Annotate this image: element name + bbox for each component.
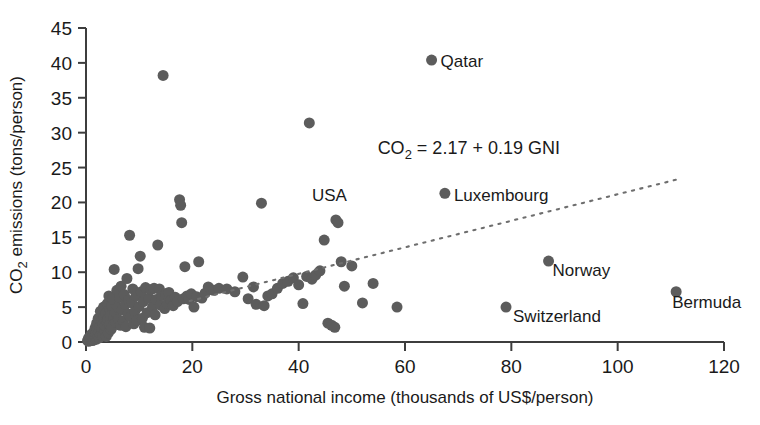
y-tick-label: 15 [51, 227, 72, 248]
data-point [339, 281, 350, 292]
y-tick-label: 0 [61, 332, 72, 353]
data-point [392, 302, 403, 313]
data-point [188, 302, 199, 313]
y-tick-label: 5 [61, 297, 72, 318]
y-tick-label: 40 [51, 53, 72, 74]
data-point [256, 198, 267, 209]
scatter-chart-figure: 051015202530354045 020406080100120 Qatar… [0, 0, 760, 425]
data-point [152, 240, 163, 251]
data-point [336, 256, 347, 267]
x-tick-label: 100 [602, 356, 634, 377]
y-axis-title: CO2 emissions (tons/person) [7, 76, 30, 294]
data-point [237, 272, 248, 283]
data-point [368, 278, 379, 289]
data-point [297, 298, 308, 309]
y-tick-label: 45 [51, 18, 72, 39]
y-axis: 051015202530354045 [51, 18, 86, 353]
data-point [175, 200, 186, 211]
data-point [304, 117, 315, 128]
x-tick-label: 80 [501, 356, 522, 377]
data-point [179, 261, 190, 272]
data-point [124, 230, 135, 241]
data-point [229, 286, 240, 297]
data-point [121, 273, 132, 284]
regression-line-group [190, 178, 682, 301]
x-axis: 020406080100120 [81, 342, 740, 377]
data-point [133, 263, 144, 274]
usa-label: USA [312, 186, 348, 205]
data-point [150, 309, 161, 320]
x-tick-label: 40 [288, 356, 309, 377]
plot-area: 051015202530354045 020406080100120 Qatar… [0, 0, 760, 425]
regression-line [190, 178, 682, 301]
data-point [259, 300, 270, 311]
data-point [144, 323, 155, 334]
data-point [193, 256, 204, 267]
data-point [176, 217, 187, 228]
y-tick-label: 20 [51, 192, 72, 213]
x-tick-label: 120 [708, 356, 740, 377]
luxembourg-label: Luxembourg [454, 186, 549, 205]
x-tick-label: 60 [394, 356, 415, 377]
regression-equation-label: CO2 = 2.17 + 0.19 GNI [378, 138, 560, 162]
regression-equation-group: CO2 = 2.17 + 0.19 GNI [378, 138, 560, 162]
bermuda-label: Bermuda [672, 293, 742, 312]
data-point [357, 297, 368, 308]
data-point [501, 302, 512, 313]
norway-label: Norway [553, 261, 611, 280]
switzerland-label: Switzerland [513, 307, 601, 326]
y-tick-label: 25 [51, 158, 72, 179]
y-tick-label: 10 [51, 262, 72, 283]
x-tick-label: 0 [81, 356, 92, 377]
y-tick-label: 30 [51, 123, 72, 144]
data-point [109, 264, 120, 275]
data-point [439, 188, 450, 199]
data-point [293, 279, 304, 290]
x-tick-label: 20 [182, 356, 203, 377]
data-point [135, 251, 146, 262]
data-point [319, 235, 330, 246]
data-point [158, 70, 169, 81]
data-point [426, 55, 437, 66]
y-tick-label: 35 [51, 88, 72, 109]
data-point [329, 322, 340, 333]
qatar-label: Qatar [441, 52, 484, 71]
data-point [333, 217, 344, 228]
x-axis-title: Gross national income (thousands of US$/… [216, 388, 593, 407]
